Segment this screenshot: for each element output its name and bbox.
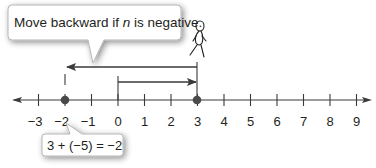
- equation-text: 3 + (−5) = −2: [47, 138, 122, 153]
- point-negative-two: [61, 96, 70, 105]
- tick-label: −2: [54, 114, 69, 129]
- tick-label: −3: [28, 114, 43, 129]
- tick-label: 5: [247, 114, 254, 129]
- tick-label: 1: [141, 114, 148, 129]
- tick-label: 0: [114, 114, 121, 129]
- point-three: [193, 96, 202, 105]
- callout-bubble: [8, 5, 181, 63]
- tick-label: 4: [220, 114, 227, 129]
- tick-label: 2: [167, 114, 174, 129]
- number-line-diagram: Move backward if n is negative. −3−2−101…: [0, 0, 376, 168]
- tick-label: 6: [273, 114, 280, 129]
- number-line-labels: −3−2−10123456789: [28, 114, 360, 129]
- tick-label: 9: [353, 114, 360, 129]
- tick-label: 3: [194, 114, 201, 129]
- tick-label: −1: [81, 114, 96, 129]
- callout-text: Move backward if n is negative.: [14, 15, 202, 30]
- tick-label: 8: [326, 114, 333, 129]
- tick-label: 7: [300, 114, 307, 129]
